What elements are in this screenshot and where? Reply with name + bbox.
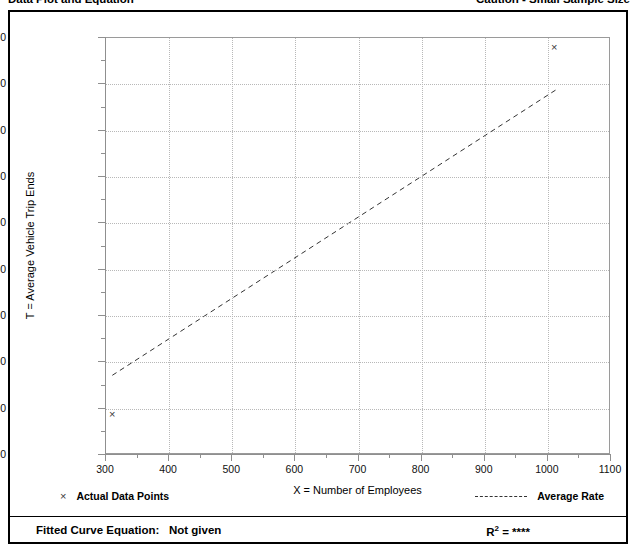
y-axis-tick-label: 400 xyxy=(0,310,6,321)
gridline-horizontal xyxy=(106,223,609,224)
x-axis-tick xyxy=(105,454,106,461)
legend-item-actual-data-points: × Actual Data Points xyxy=(60,490,169,502)
y-axis-minor-tick xyxy=(101,107,105,108)
gridline-vertical xyxy=(548,38,549,453)
y-axis-line xyxy=(105,37,106,454)
x-axis-minor-tick xyxy=(452,454,453,458)
y-axis-tick xyxy=(98,130,105,131)
x-axis-minor-tick xyxy=(389,454,390,458)
plot-area: ×× xyxy=(105,37,610,454)
gridline-vertical xyxy=(295,38,296,453)
cross-marker-icon: × xyxy=(60,490,66,502)
x-axis-minor-tick xyxy=(137,454,138,458)
y-axis-tick xyxy=(98,222,105,223)
x-axis-minor-tick xyxy=(200,454,201,458)
y-axis-tick-label: 500 xyxy=(0,264,6,275)
x-axis-tick-label: 600 xyxy=(269,464,319,475)
fitted-curve-equation-label: Fitted Curve Equation: xyxy=(36,524,159,536)
x-axis-tick-label: 400 xyxy=(143,464,193,475)
y-axis-minor-tick xyxy=(101,338,105,339)
gridline-horizontal xyxy=(106,270,609,271)
chart-legend: × Actual Data Points Average Rate xyxy=(10,490,626,516)
y-axis-tick xyxy=(98,454,105,455)
r-squared-label: R xyxy=(486,526,494,538)
y-axis-tick-label: 200 xyxy=(0,403,6,414)
x-axis-tick-label: 1100 xyxy=(585,464,635,475)
x-axis-tick-label: 700 xyxy=(333,464,383,475)
footer-row: Fitted Curve Equation: Not given R2 = **… xyxy=(10,516,626,542)
x-axis-tick xyxy=(547,454,548,461)
gridline-vertical xyxy=(422,38,423,453)
legend-label-actual-data-points: Actual Data Points xyxy=(76,490,169,502)
y-axis-minor-tick xyxy=(101,385,105,386)
x-axis-tick-label: 900 xyxy=(459,464,509,475)
x-axis-tick-label: 800 xyxy=(396,464,446,475)
y-axis-tick xyxy=(98,83,105,84)
r-squared-value: **** xyxy=(512,526,530,538)
gridline-horizontal xyxy=(106,177,609,178)
x-axis-tick-label: 500 xyxy=(206,464,256,475)
x-axis-tick xyxy=(231,454,232,461)
gridline-vertical xyxy=(359,38,360,453)
gridline-vertical xyxy=(485,38,486,453)
x-axis-tick-label: 1000 xyxy=(522,464,572,475)
gridline-vertical xyxy=(232,38,233,453)
gridline-horizontal xyxy=(106,84,609,85)
x-axis-tick xyxy=(421,454,422,461)
x-axis-minor-tick xyxy=(515,454,516,458)
y-axis-tick xyxy=(98,269,105,270)
x-axis-tick xyxy=(610,454,611,461)
gridline-horizontal xyxy=(106,131,609,132)
y-axis-tick xyxy=(98,361,105,362)
y-axis-tick-label: 1,000 xyxy=(0,32,6,43)
legend-label-average-rate: Average Rate xyxy=(537,490,604,502)
y-axis-tick-label: 600 xyxy=(0,217,6,228)
gridline-horizontal xyxy=(106,409,609,410)
average-rate-trend-line xyxy=(106,38,609,453)
y-axis-tick xyxy=(98,315,105,316)
figure-frame: ×× 1002003004005006007008009001,00030040… xyxy=(8,10,628,544)
y-axis-minor-tick xyxy=(101,199,105,200)
x-axis-tick xyxy=(358,454,359,461)
r-squared-equals: = xyxy=(502,526,509,538)
data-point-marker: × xyxy=(107,409,118,420)
page-header-right-title: Caution - Small Sample Size xyxy=(476,0,630,5)
gridline-horizontal xyxy=(106,362,609,363)
r-squared-statistic: R2 = **** xyxy=(486,524,530,538)
x-axis-tick xyxy=(294,454,295,461)
r-squared-exponent: 2 xyxy=(495,524,499,533)
page-header-left-title: Data Plot and Equation xyxy=(8,0,134,5)
fitted-curve-equation: Fitted Curve Equation: Not given xyxy=(36,524,221,536)
y-axis-tick xyxy=(98,176,105,177)
fitted-curve-equation-value: Not given xyxy=(169,524,221,536)
page-header: Data Plot and Equation Caution - Small S… xyxy=(0,0,638,10)
y-axis-tick xyxy=(98,408,105,409)
y-axis-tick-label: 100 xyxy=(0,449,6,460)
y-axis-title: T = Average Vehicle Trip Ends xyxy=(24,37,40,454)
y-axis-tick-label: 800 xyxy=(0,125,6,136)
y-axis-minor-tick xyxy=(101,60,105,61)
y-axis-minor-tick xyxy=(101,292,105,293)
y-axis-tick xyxy=(98,37,105,38)
chart-region: ×× 1002003004005006007008009001,00030040… xyxy=(10,12,626,482)
y-axis-minor-tick xyxy=(101,431,105,432)
y-axis-tick-label: 300 xyxy=(0,356,6,367)
gridline-vertical xyxy=(169,38,170,453)
x-axis-tick xyxy=(484,454,485,461)
x-axis-minor-tick xyxy=(578,454,579,458)
x-axis-minor-tick xyxy=(263,454,264,458)
legend-item-average-rate: Average Rate xyxy=(475,490,604,502)
y-axis-tick-label: 700 xyxy=(0,171,6,182)
data-point-marker: × xyxy=(549,42,560,53)
dashed-line-icon xyxy=(475,496,527,497)
y-axis-minor-tick xyxy=(101,153,105,154)
x-axis-tick-label: 300 xyxy=(80,464,130,475)
x-axis-minor-tick xyxy=(326,454,327,458)
gridline-horizontal xyxy=(106,316,609,317)
x-axis-tick xyxy=(168,454,169,461)
y-axis-tick-label: 900 xyxy=(0,78,6,89)
y-axis-minor-tick xyxy=(101,246,105,247)
